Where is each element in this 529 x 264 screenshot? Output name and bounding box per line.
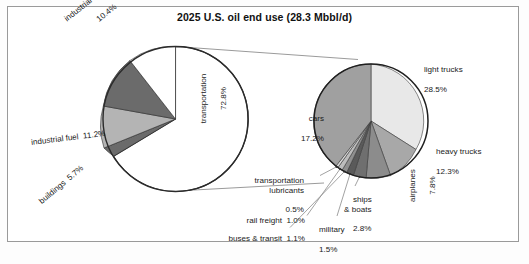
label-industrial-feedstocks-name: industrial feedstocks: [63, 0, 126, 23]
label-light-trucks-value: 28.5%: [424, 85, 447, 94]
label-cars-name: cars: [309, 114, 324, 123]
label-heavy-trucks-name: heavy trucks: [436, 147, 481, 156]
label-cars-value: 17.2%: [301, 134, 324, 143]
label-military: military 1.5%: [310, 215, 345, 264]
label-ships-boats: ships & boats 2.8%: [344, 185, 372, 244]
label-buses-transit-text: buses & transit 1.1%: [229, 234, 305, 243]
label-transportation: transportation 72.8%: [189, 48, 238, 158]
label-ships-boats-name: ships & boats: [344, 195, 372, 214]
label-airplanes-name: airplanes: [408, 169, 417, 202]
label-transportation-name: transportation: [199, 74, 208, 124]
label-military-value: 1.5%: [319, 245, 337, 254]
chart-figure: 2025 U.S. oil end use (28.3 Mbbl/d): [0, 0, 529, 264]
label-light-trucks-name: light trucks: [424, 65, 463, 74]
label-lubricants-name: transportation lubricants: [255, 176, 305, 195]
label-airplanes: airplanes 7.8%: [398, 160, 447, 220]
label-military-name: military: [319, 225, 345, 234]
label-industrial-fuel-text: industrial fuel 11.2%: [31, 129, 106, 147]
label-transportation-value: 72.8%: [219, 87, 228, 110]
label-airplanes-value: 7.8%: [428, 176, 437, 194]
label-industrial-feedstocks-value: 10.4%: [95, 2, 119, 23]
label-ships-boats-value: 2.8%: [353, 224, 371, 233]
label-cars: cars 17.2%: [288, 104, 324, 153]
label-light-trucks: light trucks 28.5%: [415, 55, 463, 104]
label-buses-transit: buses & transit 1.1%: [205, 224, 305, 254]
